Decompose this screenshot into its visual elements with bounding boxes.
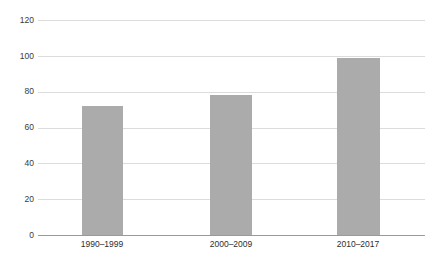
y-axis-tick-label: 0: [0, 231, 34, 240]
y-tick-text-60: 60: [25, 122, 34, 132]
bar-chart-figure: 120 100 80 60 40 20 0 1990–1999 2000–200…: [0, 0, 442, 262]
plot-area: [38, 20, 425, 235]
y-axis-tick-label: 100: [0, 52, 34, 61]
y-tick-text-0: 0: [29, 230, 34, 240]
y-tick-text-80: 80: [25, 86, 34, 96]
gridline-120: [38, 20, 425, 21]
y-tick-text-120: 120: [20, 15, 34, 25]
y-axis-tick-label: 80: [0, 87, 34, 96]
bar-1990-1999[interactable]: [82, 106, 123, 235]
x-tick-text-1: 1990–1999: [81, 239, 124, 249]
x-axis-tick-label-2: 2000–2009: [171, 240, 291, 249]
x-axis-baseline: [38, 235, 425, 236]
y-axis-tick-label: 40: [0, 159, 34, 168]
x-axis-tick-label-1: 1990–1999: [42, 240, 162, 249]
bar-2010-2017[interactable]: [337, 58, 380, 235]
y-tick-text-100: 100: [20, 51, 34, 61]
y-tick-text-40: 40: [25, 158, 34, 168]
y-axis-tick-label: 20: [0, 195, 34, 204]
bar-2000-2009[interactable]: [210, 95, 252, 235]
y-axis-tick-label: 120: [0, 16, 34, 25]
y-tick-text-20: 20: [25, 194, 34, 204]
x-tick-text-3: 2010–2017: [337, 239, 380, 249]
x-tick-text-2: 2000–2009: [210, 239, 253, 249]
y-axis-tick-label: 60: [0, 123, 34, 132]
x-axis-tick-label-3: 2010–2017: [298, 240, 418, 249]
